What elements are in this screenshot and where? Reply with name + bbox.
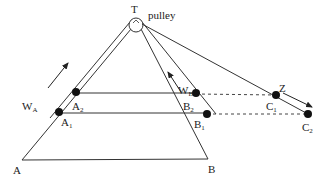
label-B2: B2 — [183, 101, 194, 114]
label-pulley: pulley — [148, 10, 176, 21]
point-B2 — [192, 89, 200, 97]
label-A2: A2 — [72, 101, 83, 114]
arrow-Z-icon — [283, 93, 312, 107]
point-B1 — [203, 110, 211, 118]
point-A2 — [72, 88, 80, 96]
base-line-AB — [22, 159, 208, 160]
point-C2 — [304, 110, 312, 118]
label-T: T — [131, 4, 138, 15]
string-to-C2 — [142, 24, 308, 114]
label-A: A — [13, 165, 21, 176]
right-rope — [142, 22, 216, 114]
dashed-B2-C1 — [196, 94, 276, 95]
label-WB: WB — [178, 85, 193, 98]
label-B: B — [208, 164, 215, 175]
point-A1 — [55, 108, 63, 116]
label-A1: A1 — [61, 117, 72, 130]
label-C1: C1 — [266, 101, 277, 114]
label-Z: Z — [279, 83, 286, 94]
label-WA: WA — [22, 101, 37, 114]
label-C2: C2 — [302, 122, 313, 135]
label-B1: B1 — [194, 119, 205, 132]
arrow-WA-icon — [48, 63, 68, 88]
